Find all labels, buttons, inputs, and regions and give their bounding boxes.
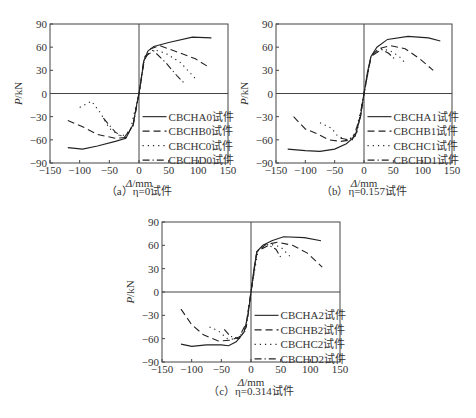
- figure-canvas: −150−100−50050100150−90−60−300306090Δ/mm…: [0, 0, 476, 418]
- y-tick-label: 60: [148, 239, 160, 251]
- y-tick-label: −90: [142, 356, 160, 368]
- y-tick-label: 90: [36, 18, 48, 30]
- legend-label: CBCHA2试件: [281, 309, 346, 321]
- panel-caption: （a）η=0试件: [106, 185, 172, 197]
- y-tick-label: 30: [148, 263, 160, 275]
- x-tick-label: −50: [326, 164, 344, 176]
- y-tick-label: 60: [36, 41, 48, 53]
- y-tick-label: 60: [262, 41, 274, 53]
- y-tick-label: −60: [256, 134, 274, 146]
- y-axis-label: P/kN: [238, 82, 250, 106]
- x-tick-label: 0: [136, 164, 142, 176]
- y-tick-label: −30: [256, 111, 274, 123]
- y-tick-label: −30: [142, 309, 160, 321]
- panel-caption: （b）η=0.157试件: [321, 185, 407, 197]
- y-tick-label: 90: [148, 216, 160, 228]
- legend-label: CBCHC2试件: [281, 338, 346, 350]
- legend-label: CBCHA1试件: [394, 111, 459, 123]
- legend-label: CBCHB0试件: [169, 125, 234, 137]
- y-tick-label: −30: [30, 111, 48, 123]
- y-tick-label: −90: [256, 157, 274, 169]
- chart-panel-b: −150−100−50050100150−90−60−300306090Δ/mm…: [238, 18, 461, 197]
- x-tick-label: 0: [361, 164, 367, 176]
- legend-label: CBCHC1试件: [394, 140, 459, 152]
- x-tick-label: −50: [101, 164, 119, 176]
- legend-label: CBCHA0试件: [169, 111, 234, 123]
- legend-label: CBCHB1试件: [394, 125, 459, 137]
- y-tick-label: −60: [142, 333, 160, 345]
- legend-label: CBCHD2试件: [281, 353, 346, 365]
- y-tick-label: −90: [30, 157, 48, 169]
- legend-label: CBCHC0试件: [169, 140, 234, 152]
- x-tick-label: −50: [213, 363, 231, 375]
- chart-panel-c: −150−100−50050100150−90−60−300306090Δ/mm…: [124, 216, 349, 397]
- legend-label: CBCHD1试件: [394, 154, 459, 166]
- y-tick-label: 0: [42, 88, 48, 100]
- y-tick-label: 30: [262, 64, 274, 76]
- legend-label: CBCHB2试件: [281, 324, 346, 336]
- y-axis-label: P/kN: [124, 280, 136, 304]
- x-tick-label: −100: [68, 164, 91, 176]
- y-tick-label: 30: [36, 64, 48, 76]
- x-tick-label: −100: [180, 363, 203, 375]
- y-tick-label: −60: [30, 134, 48, 146]
- panel-caption: （c）η=0.314试件: [208, 385, 294, 397]
- y-axis-label: P/kN: [12, 82, 24, 106]
- series-line: [341, 50, 395, 140]
- y-tick-label: 0: [268, 88, 274, 100]
- y-tick-label: 90: [262, 18, 274, 30]
- y-tick-label: 0: [154, 286, 160, 298]
- x-tick-label: −100: [294, 164, 317, 176]
- x-tick-label: 0: [248, 363, 254, 375]
- legend-label: CBCHD0试件: [169, 154, 234, 166]
- chart-panel-a: −150−100−50050100150−90−60−300306090Δ/mm…: [12, 18, 237, 197]
